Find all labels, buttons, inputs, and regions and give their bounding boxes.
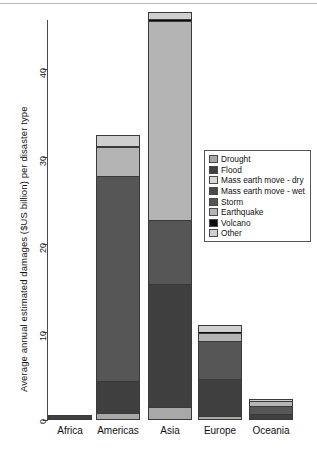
legend-swatch-icon — [209, 187, 218, 195]
bar-segment[interactable] — [148, 21, 192, 219]
bar-segment[interactable] — [198, 333, 242, 342]
bar-segment[interactable] — [148, 284, 192, 407]
chart-figure: 010203040 Average annual estimated damag… — [0, 0, 317, 457]
legend-label: Mass earth move - wet — [221, 187, 305, 195]
legend-label: Volcano — [221, 219, 251, 227]
bar-segment[interactable] — [249, 399, 293, 401]
legend-swatch-icon — [209, 219, 218, 227]
legend-swatch-icon — [209, 208, 218, 216]
bar-segment[interactable] — [198, 325, 242, 332]
bar-segment[interactable] — [198, 341, 242, 379]
bar-segment[interactable] — [249, 401, 293, 406]
legend-label: Storm — [221, 198, 243, 206]
legend-item-flood[interactable]: Flood — [209, 165, 307, 176]
chart-legend: DroughtFloodMass earth move - dryMass ea… — [204, 150, 311, 242]
legend-swatch-icon — [209, 176, 218, 184]
bar-segment[interactable] — [96, 413, 140, 420]
bar-africa[interactable] — [48, 415, 92, 420]
legend-swatch-icon — [209, 198, 218, 206]
legend-label: Other — [221, 229, 242, 237]
legend-label: Mass earth move - dry — [221, 176, 304, 184]
bar-segment[interactable] — [198, 416, 242, 420]
bar-europe[interactable] — [198, 325, 242, 420]
legend-swatch-icon — [209, 229, 218, 237]
bar-segment[interactable] — [148, 12, 192, 19]
bar-segment[interactable] — [148, 407, 192, 420]
legend-label: Flood — [221, 166, 242, 174]
bar-segment[interactable] — [198, 379, 242, 416]
legend-item-mass-earth-move-wet[interactable]: Mass earth move - wet — [209, 186, 307, 197]
legend-item-mass-earth-move-dry[interactable]: Mass earth move - dry — [209, 175, 307, 186]
x-label-oceania: Oceania — [231, 425, 311, 436]
bar-segment[interactable] — [249, 406, 293, 414]
bar-oceania[interactable] — [249, 399, 293, 420]
bar-segment[interactable] — [96, 176, 140, 381]
bar-segment[interactable] — [96, 135, 140, 146]
bar-segment[interactable] — [96, 381, 140, 413]
bar-segment[interactable] — [48, 415, 92, 419]
legend-item-other[interactable]: Other — [209, 228, 307, 239]
legend-swatch-icon — [209, 155, 218, 163]
bar-americas[interactable] — [96, 135, 140, 420]
legend-label: Drought — [221, 155, 251, 163]
legend-label: Earthquake — [221, 208, 263, 216]
bar-segment[interactable] — [148, 19, 192, 22]
legend-swatch-icon — [209, 166, 218, 174]
legend-item-volcano[interactable]: Volcano — [209, 218, 307, 229]
bar-segment[interactable] — [96, 147, 140, 176]
legend-item-earthquake[interactable]: Earthquake — [209, 207, 307, 218]
legend-item-drought[interactable]: Drought — [209, 154, 307, 165]
bar-segment[interactable] — [148, 220, 192, 284]
bar-segment[interactable] — [249, 414, 293, 419]
bar-asia[interactable] — [148, 12, 192, 420]
legend-item-storm[interactable]: Storm — [209, 196, 307, 207]
